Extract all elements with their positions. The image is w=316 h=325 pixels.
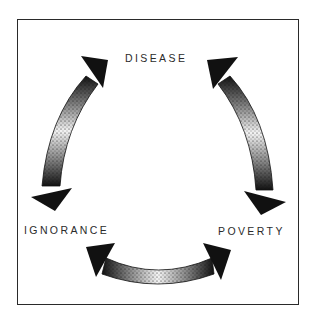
label-disease: DISEASE (125, 52, 187, 64)
arrowhead-down-icon (31, 188, 72, 211)
arrow-disease-poverty (207, 57, 286, 215)
arrow-ignorance-disease (31, 56, 108, 211)
arrowhead-down-icon (244, 191, 286, 215)
arrow-ignorance-poverty (86, 243, 231, 284)
label-poverty: POVERTY (218, 225, 285, 237)
label-ignorance: IGNORANCE (24, 224, 109, 236)
cycle-diagram (0, 0, 316, 325)
